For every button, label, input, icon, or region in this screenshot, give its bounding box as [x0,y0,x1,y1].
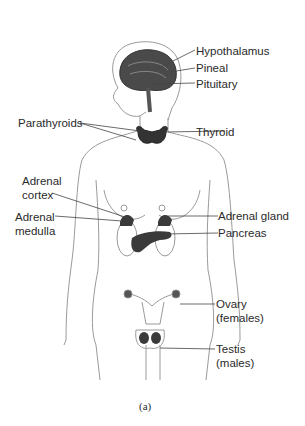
adrenal-gland-right-icon [158,215,172,226]
label-adrenal-gland: Adrenal gland [218,210,289,223]
label-adrenal-medulla-line2: medulla [15,225,55,238]
brain-icon [120,50,176,112]
label-pancreas: Pancreas [218,227,267,240]
label-ovary-line2: (females) [216,312,264,325]
leader-lines [52,50,225,349]
label-parathyroids: Parathyroids [18,117,83,130]
label-adrenal-cortex-line1: Adrenal [22,175,62,188]
label-ovary-line1: Ovary [216,298,247,311]
ovary-left-icon [124,290,132,298]
thyroid-icon [137,126,168,143]
label-thyroid: Thyroid [196,126,234,139]
label-testis-line2: (males) [216,357,254,370]
ovary-right-icon [172,290,180,298]
label-hypothalamus: Hypothalamus [196,45,270,58]
figure-caption: (a) [139,400,151,412]
testis-right-icon [151,332,161,344]
label-adrenal-cortex-line2: cortex [22,189,53,202]
label-pineal: Pineal [196,62,228,75]
label-testis-line1: Testis [216,343,245,356]
testis-left-icon [139,332,149,344]
label-adrenal-medulla-line1: Adrenal [15,211,55,224]
label-pituitary: Pituitary [196,78,238,91]
